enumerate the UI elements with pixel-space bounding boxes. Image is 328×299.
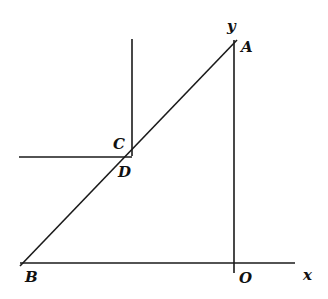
label-x-axis: x (302, 266, 313, 284)
label-point-a: A (239, 38, 253, 56)
line-ab (20, 40, 237, 266)
geometry-diagram: y A C D B O x (0, 0, 328, 299)
label-point-c: C (113, 135, 125, 153)
label-point-b: B (24, 268, 38, 286)
label-y-axis: y (226, 17, 237, 35)
label-point-d: D (117, 163, 131, 181)
label-origin-o: O (239, 269, 252, 287)
